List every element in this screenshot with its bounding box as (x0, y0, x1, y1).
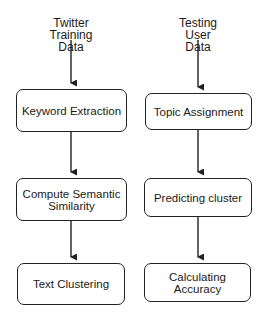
step-label: Accuracy (169, 283, 226, 295)
step-predicting-cluster: Predicting cluster (144, 178, 252, 217)
step-label: Keyword Extraction (22, 105, 121, 117)
step-label: Text Clustering (33, 278, 109, 290)
step-keyword-extraction: Keyword Extraction (16, 89, 127, 132)
step-calculating-accuracy: Calculating Accuracy (144, 263, 251, 302)
step-label: Calculating (169, 271, 226, 283)
step-text-clustering: Text Clustering (17, 263, 125, 305)
step-label: Compute Semantic (23, 188, 121, 200)
step-label: Similarity (23, 200, 121, 212)
flowchart-diagram: Twitter Training Data Testing User Data … (0, 0, 265, 320)
step-label: Predicting cluster (154, 192, 242, 204)
input-label-line: Data (158, 41, 238, 53)
step-label: Topic Assignment (154, 106, 244, 118)
input-label-twitter-training-data: Twitter Training Data (31, 17, 111, 53)
input-label-line: Data (31, 41, 111, 53)
input-label-testing-user-data: Testing User Data (158, 17, 238, 53)
step-topic-assignment: Topic Assignment (145, 93, 252, 130)
step-compute-semantic-similarity: Compute Semantic Similarity (16, 178, 127, 221)
